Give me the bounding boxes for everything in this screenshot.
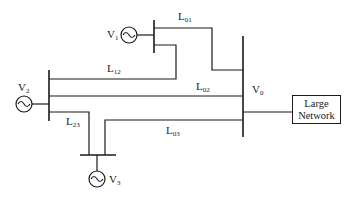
- network-label-line2: Network: [298, 110, 335, 122]
- label-v0: V0: [252, 84, 263, 97]
- label-l02: L02: [196, 81, 210, 94]
- label-l03: L03: [166, 125, 180, 138]
- generator-v3-icon: [89, 171, 105, 187]
- label-l23: L23: [66, 116, 80, 129]
- large-network-box: Large Network: [292, 95, 341, 124]
- network-label-line1: Large: [304, 98, 328, 110]
- label-l01: L01: [178, 11, 192, 24]
- line-l01: [154, 28, 243, 70]
- label-l12: L12: [107, 63, 121, 76]
- label-v1: V1: [107, 29, 118, 42]
- label-v2: V2: [18, 82, 29, 95]
- label-v3: V3: [109, 174, 120, 187]
- generator-v2-icon: [16, 96, 32, 112]
- generator-v1-icon: [121, 27, 137, 43]
